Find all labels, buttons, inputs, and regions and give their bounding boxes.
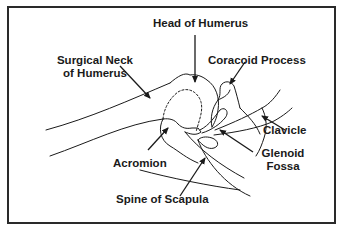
humerus-shaft-upper [46, 83, 170, 130]
label-surgical-neck-line1: Surgical Neck [50, 54, 140, 67]
label-glenoid-fossa-line2: Fossa [256, 160, 310, 173]
label-spine-of-scapula: Spine of Scapula [116, 193, 209, 206]
label-surgical-neck-line2: of Humerus [50, 67, 140, 80]
acromion-outline [163, 119, 201, 135]
humerus-head-dashed [163, 90, 202, 132]
label-coracoid-process: Coracoid Process [208, 54, 306, 67]
arrow-acromion [148, 128, 168, 150]
humerus-shaft-lower [50, 119, 163, 156]
label-glenoid-fossa-line1: Glenoid [256, 147, 310, 160]
label-head-of-humerus: Head of Humerus [153, 17, 248, 30]
label-glenoid-fossa: Glenoid Fossa [256, 147, 310, 173]
scapula-upper-border [200, 109, 227, 133]
arrow-spine-of-scapula [180, 158, 205, 196]
arrow-glenoid-fossa [220, 130, 253, 152]
label-acromion: Acromion [113, 157, 167, 170]
label-surgical-neck: Surgical Neck of Humerus [50, 54, 140, 80]
label-clavicle: Clavicle [263, 124, 306, 137]
